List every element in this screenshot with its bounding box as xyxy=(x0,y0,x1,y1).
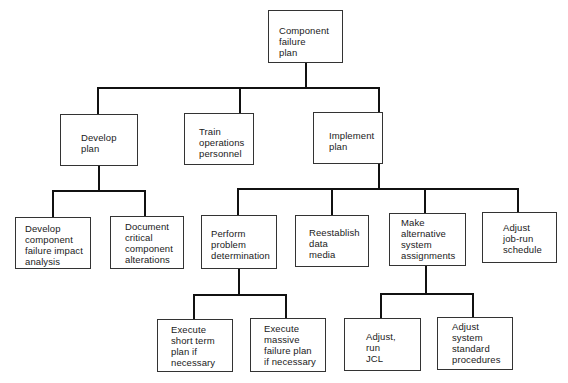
node-perform-problem-determination: Perform problem determination xyxy=(201,215,277,269)
connector-to-document-critical xyxy=(144,190,146,216)
connector-implement-down xyxy=(378,163,380,189)
connector-develop-down xyxy=(98,165,100,191)
connector-make-alternative-down xyxy=(425,265,427,294)
node-adjust-run-jcl: Adjust, run JCL xyxy=(344,318,421,371)
connector-to-execute-massive xyxy=(285,294,287,318)
node-reestablish-data-media: Reestablish data media xyxy=(295,215,369,267)
connector-to-reestablish xyxy=(331,188,333,215)
node-component-failure-plan: Component failure plan xyxy=(268,10,343,63)
node-execute-massive-failure-plan: Execute massive failure plan if necessar… xyxy=(250,318,326,372)
node-implement-plan: Implement plan xyxy=(313,112,383,164)
connector-to-adjust-system xyxy=(472,293,474,317)
node-develop-plan: Develop plan xyxy=(60,114,138,166)
node-document-critical-component-alterations: Document critical component alterations xyxy=(110,216,184,269)
connector-to-perform xyxy=(237,188,239,215)
connector-to-adjust-job-run xyxy=(517,188,519,212)
connector-to-train xyxy=(239,87,241,113)
node-adjust-system-standard-procedures: Adjust system standard procedures xyxy=(437,317,513,370)
connector-to-execute-short xyxy=(193,294,195,319)
connector-root-down xyxy=(305,62,307,88)
component-failure-plan-diagram: Component failure plan Develop plan Trai… xyxy=(0,0,568,383)
connector-implement-bar xyxy=(237,188,519,190)
connector-perform-down xyxy=(238,268,240,295)
node-train-operations-personnel: Train operations personnel xyxy=(184,113,254,165)
node-execute-short-term-plan: Execute short term plan if necessary xyxy=(157,319,233,372)
node-develop-component-failure-impact-analysis: Develop component failure impact analysi… xyxy=(15,217,91,269)
connector-to-develop-component xyxy=(52,190,54,217)
connector-to-make-alternative xyxy=(424,188,426,213)
connector-develop-bar xyxy=(52,190,146,192)
connector-to-adjust-run-jcl xyxy=(380,293,382,318)
connector-to-implement xyxy=(378,87,380,112)
connector-to-develop-plan xyxy=(97,87,99,114)
node-adjust-job-run-schedule: Adjust job-run schedule xyxy=(482,212,557,263)
connector-perform-bar xyxy=(193,294,287,296)
node-make-alternative-system-assignments: Make alternative system assignments xyxy=(389,213,466,266)
connector-make-alternative-bar xyxy=(380,293,474,295)
